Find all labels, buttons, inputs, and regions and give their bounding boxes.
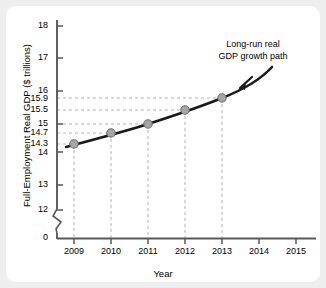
x-tick-label-2014: 2014: [239, 246, 279, 256]
annotation-line-2: GDP growth path: [192, 50, 314, 62]
x-tick-label-2010: 2010: [91, 246, 131, 256]
gdp-growth-path-curve: [66, 67, 272, 147]
data-point-2011: [144, 120, 152, 128]
x-tick-label-2013: 2013: [202, 246, 242, 256]
annotation-line-1: Long-run real: [192, 38, 314, 50]
x-tick-label-2011: 2011: [128, 246, 168, 256]
vertical-guide-lines: [74, 98, 222, 238]
x-tick-label-2009: 2009: [54, 246, 94, 256]
data-point-2010: [107, 129, 115, 137]
x-tick-label-2012: 2012: [165, 246, 205, 256]
y-axis-break-zigzag: [53, 209, 61, 233]
data-point-2013: [218, 94, 226, 102]
data-point-2012: [181, 106, 189, 114]
y-axis-title: Full-Employment Real GDP ($ trillions): [21, 26, 32, 226]
x-axis-title: Year: [0, 268, 326, 279]
data-point-2009: [70, 140, 78, 148]
x-tick-label-2015: 2015: [276, 246, 316, 256]
horizontal-guide-lines: [57, 98, 222, 144]
y-tick-label-0: 0: [8, 233, 48, 242]
